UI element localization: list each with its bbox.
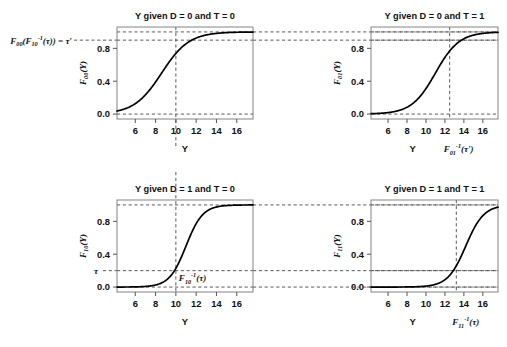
panel-11-plot-box xyxy=(371,200,498,292)
panel-11-axes: 68101214160.00.40.8 xyxy=(351,216,488,309)
panel-11-xtick-label-10: 10 xyxy=(421,298,431,309)
panel-00: Y given D = 0 and T = 068101214160.00.40… xyxy=(74,11,498,154)
panel-10-xaxis-title: Y xyxy=(182,316,189,327)
panel-10-xtick-label-10: 10 xyxy=(171,298,181,309)
panel-00-xtick-label-12: 12 xyxy=(191,125,201,136)
panel-10-axes: 68101214160.00.40.8 xyxy=(97,216,242,309)
panel-10-ytick-label-0: 0.0 xyxy=(97,281,110,292)
panel-01-xtick-label-14: 14 xyxy=(459,125,470,136)
panel-11-ytick-label-1: 0.4 xyxy=(351,249,365,260)
panel-11-cdf-curve xyxy=(371,207,498,287)
panel-10-cdf-curve xyxy=(117,205,253,287)
panel-10-xtick-label-14: 14 xyxy=(211,298,222,309)
panel-11-yaxis-title-text: F11(Y) xyxy=(332,234,343,259)
panel-01-xtick-label-12: 12 xyxy=(440,125,450,136)
panel-10-title: Y given D = 1 and T = 0 xyxy=(135,184,235,194)
panel-11-yaxis-title: F11(Y) xyxy=(332,234,343,259)
panel-00-ytick-label-2: 0.8 xyxy=(97,43,110,54)
panel-00-xtick-label-14: 14 xyxy=(211,125,222,136)
panel-00-plot-box xyxy=(117,27,253,119)
panel-00-ytick-label-0: 0.0 xyxy=(97,108,110,119)
panel-10-xtick-label-12: 12 xyxy=(191,298,201,309)
panel-01-ytick-label-0: 0.0 xyxy=(351,108,364,119)
panel-00-xtick-label-6: 6 xyxy=(133,125,138,136)
panel-10-yaxis-title: F10(Y) xyxy=(78,234,89,259)
panel-00-cdf-curve xyxy=(117,32,253,111)
panel-01-ytick-label-1: 0.4 xyxy=(351,76,365,87)
panel-10-ytick-label-1: 0.4 xyxy=(97,249,111,260)
panel-11-xaxis-title: Y xyxy=(410,316,417,327)
panel-01-xtick-label-6: 6 xyxy=(385,125,390,136)
panel-01-xtick-label-16: 16 xyxy=(478,125,488,136)
panel-11-reference-lines xyxy=(371,200,498,292)
panel-01-yaxis-title: F01(Y) xyxy=(332,61,343,86)
panel-01-title: Y given D = 0 and T = 1 xyxy=(385,11,485,21)
panel-01-ytick-label-2: 0.8 xyxy=(351,43,364,54)
panel-00-xaxis-title: Y xyxy=(182,143,189,154)
panel-00-xtick-label-16: 16 xyxy=(232,125,242,136)
panel-10-xtick-label-16: 16 xyxy=(232,298,242,309)
panel-11-xtick-label-14: 14 xyxy=(459,298,470,309)
panel-10: Y given D = 1 and T = 068101214160.00.40… xyxy=(78,172,498,327)
panel-01: Y given D = 0 and T = 168101214160.00.40… xyxy=(332,11,498,156)
panel-00-xtick-label-8: 8 xyxy=(153,125,158,136)
panel-11: Y given D = 1 and T = 168101214160.00.40… xyxy=(332,184,498,329)
panel-00-yaxis-title: F00(Y) xyxy=(78,61,89,86)
panel-01-xtick-label-8: 8 xyxy=(404,125,409,136)
panel-00-yaxis-title-text: F00(Y) xyxy=(78,61,89,86)
panel-11-ytick-label-2: 0.8 xyxy=(351,216,364,227)
panel-00-title: Y given D = 0 and T = 0 xyxy=(135,11,235,21)
panel-10-yaxis-title-text: F10(Y) xyxy=(78,234,89,259)
panel-00-axes: 68101214160.00.40.8 xyxy=(97,43,242,136)
panel-11-xtick-label-16: 16 xyxy=(478,298,488,309)
panel-10-ytick-label-2: 0.8 xyxy=(97,216,110,227)
panel-01-yaxis-title-text: F01(Y) xyxy=(332,61,343,86)
panel-10-xtick-label-8: 8 xyxy=(153,298,158,309)
panel-11-title: Y given D = 1 and T = 1 xyxy=(385,184,485,194)
figure-svg: Y given D = 0 and T = 068101214160.00.40… xyxy=(0,0,507,347)
panel-11-xtick-label-12: 12 xyxy=(440,298,450,309)
panel-01-inverse-cdf-annotation: F01-1(τ') xyxy=(443,142,474,156)
panel-01-xtick-label-10: 10 xyxy=(421,125,431,136)
panel-10-tau-label: τ xyxy=(94,266,99,276)
panel-11-xtick-label-8: 8 xyxy=(404,298,409,309)
global-quantile-equation: F00(F10-1(τ)) = τ′ xyxy=(9,34,72,48)
panel-11-xtick-label-6: 6 xyxy=(385,298,390,309)
figure-container: Y given D = 0 and T = 068101214160.00.40… xyxy=(0,0,507,347)
panel-11-ytick-label-0: 0.0 xyxy=(351,281,364,292)
panel-01-cdf-curve xyxy=(371,32,498,113)
panel-11-inverse-cdf-annotation: F11-1(τ) xyxy=(451,315,479,329)
panel-00-ytick-label-1: 0.4 xyxy=(97,76,111,87)
panel-10-inverse-cdf-annotation: F10-1(τ) xyxy=(178,271,206,285)
panel-00-xtick-label-10: 10 xyxy=(171,125,181,136)
panel-01-axes: 68101214160.00.40.8 xyxy=(351,43,488,136)
panel-10-xtick-label-6: 6 xyxy=(133,298,138,309)
panel-01-xaxis-title: Y xyxy=(410,143,417,154)
